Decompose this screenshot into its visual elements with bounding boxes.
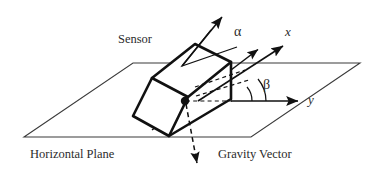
- y-axis-label: y: [308, 93, 314, 106]
- horizontal-plane-label: Horizontal Plane: [30, 148, 114, 161]
- beta-angle-arc-inner: [247, 87, 252, 101]
- sensor-label: Sensor: [118, 33, 152, 46]
- sensor-center-dot: [181, 97, 189, 105]
- beta-angle-label: β: [263, 78, 270, 92]
- alpha-angle-label: α: [234, 25, 241, 39]
- x-axis-label: x: [285, 25, 291, 38]
- sensor-orientation-diagram: Sensor Horizontal Plane Gravity Vector x…: [0, 0, 377, 185]
- gravity-vector-label: Gravity Vector: [218, 148, 292, 161]
